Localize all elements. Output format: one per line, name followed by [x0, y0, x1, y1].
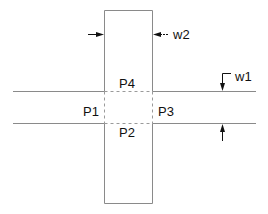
w1-top-arrowhead-icon [220, 83, 225, 91]
w2-right-arrowhead-icon [153, 32, 161, 37]
w2-left-arrowhead-icon [96, 32, 104, 37]
w2-dimension: w2 [88, 27, 190, 42]
horizontal-strip [13, 92, 256, 124]
junction-diagram: w2 w1 P4 P1 P3 P2 [0, 0, 268, 214]
port-label-p1: P1 [83, 104, 99, 119]
port-label-p3: P3 [158, 104, 174, 119]
w1-label: w1 [234, 69, 252, 84]
port-label-p4: P4 [119, 76, 135, 91]
port-label-p2: P2 [119, 125, 135, 140]
w1-dimension: w1 [220, 69, 252, 141]
w1-bottom-arrowhead-icon [220, 124, 225, 132]
w2-label: w2 [172, 27, 190, 42]
vertical-strip [105, 11, 153, 204]
